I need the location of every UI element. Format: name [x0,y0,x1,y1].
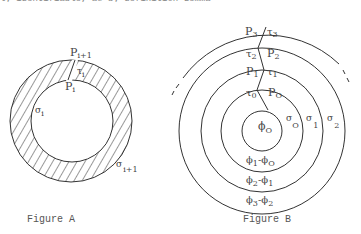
label-sigma0: σO [286,113,299,130]
label-p1: P1 [246,65,259,79]
diagram-canvas: Pi+1 τi Pi σi σi+1 Figure A P3 τ [0,0,361,234]
caption-figure-b: Figure B [243,214,291,225]
outer-partial-arc [183,35,339,78]
label-tau1: τ1 [267,66,278,79]
label-ring1: ϕ1-ϕO [246,154,275,168]
label-ring3: ϕ3-ϕ2 [246,194,273,208]
figure-a: Pi+1 τi Pi σi σi+1 Figure A [0,46,150,225]
label-p0: PO [268,86,282,100]
label-tau0: τ0 [246,87,257,100]
label-p3: P3 [245,25,258,39]
label-phi0: ϕO [258,120,273,135]
label-sigma1: σ1 [306,113,318,130]
hatched-annulus [0,50,150,200]
label-tau2: τ2 [246,48,257,61]
outer-arc-dash-right [343,70,349,82]
outer-arc-dash-left [172,84,179,95]
caption-figure-a: Figure A [27,214,75,225]
label-p-i+1: Pi+1 [70,46,92,60]
label-sigma2: σ2 [327,113,339,130]
label-ring2: ϕ2-ϕ1 [246,174,273,188]
label-tau3: τ3 [267,26,278,39]
figure-b-labels: P3 τ3 τ2 P2 P1 τ1 τ0 PO ϕO σO σ1 [243,25,339,225]
